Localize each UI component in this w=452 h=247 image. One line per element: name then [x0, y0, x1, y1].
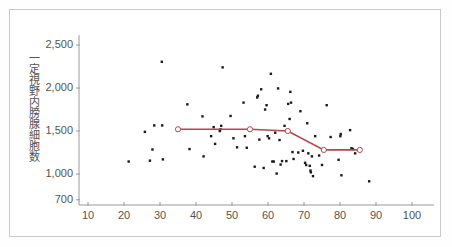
y-tick-label: 700 [27, 193, 73, 205]
x-tick-label: 90 [361, 209, 391, 221]
x-tick-label: 10 [73, 209, 103, 221]
x-tick-label: 40 [181, 209, 211, 221]
data-points [127, 61, 370, 183]
x-tick-label: 70 [289, 209, 319, 221]
y-tick-label: 2,500 [27, 38, 73, 50]
x-tick-label: 20 [109, 209, 139, 221]
y-tick-label: 2,000 [27, 81, 73, 93]
figure-container: 一定視野内膀腺細胞数 7001,0001,5002,0002,500 10203… [0, 0, 452, 247]
y-tick-label: 1,000 [27, 167, 73, 179]
x-tick-label: 50 [217, 209, 247, 221]
x-tick-label: 30 [145, 209, 175, 221]
x-tick-label: 80 [325, 209, 355, 221]
tick-marks [76, 45, 412, 206]
y-tick-label: 1,500 [27, 124, 73, 136]
axes-lines [79, 35, 434, 205]
x-tick-label: 100 [397, 209, 427, 221]
trend-line [175, 127, 362, 153]
x-tick-label: 60 [253, 209, 283, 221]
